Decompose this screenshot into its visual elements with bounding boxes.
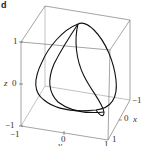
y-axis-label: y [58, 141, 62, 146]
tick-marks [19, 42, 122, 135]
x-axis-label: x [133, 115, 137, 124]
z-tick-top: 1 [13, 37, 18, 46]
3d-curve-plot [0, 0, 145, 146]
z-axis-label: z [4, 79, 8, 88]
curve [36, 23, 117, 115]
x-tick-back: −1 [132, 96, 142, 105]
y-tick-left: −1 [10, 130, 20, 139]
x-tick-front: 1 [112, 135, 117, 144]
z-tick-mid: 0 [12, 79, 17, 88]
y-tick-right: 1 [104, 140, 109, 146]
x-tick-mid: 0 [124, 114, 129, 123]
